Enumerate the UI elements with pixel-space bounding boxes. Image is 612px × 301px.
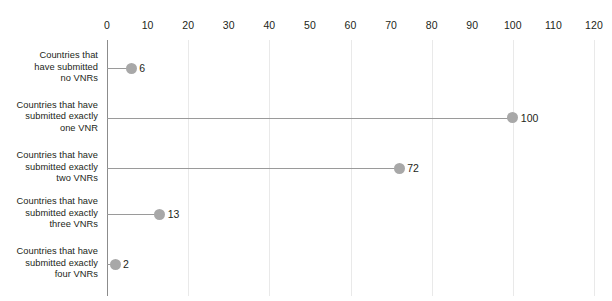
- category-label-line: submitted exactly: [0, 208, 98, 220]
- data-point-marker[interactable]: [394, 163, 405, 174]
- gridline-80: [432, 40, 433, 296]
- category-label-line: four VNRs: [0, 269, 98, 281]
- gridline-100: [513, 40, 514, 296]
- category-label: Countries thathave submittedno VNRs: [0, 50, 98, 85]
- x-tick-label-90: 90: [452, 19, 492, 32]
- x-tick-label-120: 120: [574, 19, 612, 32]
- x-tick-label-110: 110: [533, 19, 573, 32]
- x-tick-label-70: 70: [371, 19, 411, 32]
- x-tick-label-20: 20: [168, 19, 208, 32]
- x-tick-label-60: 60: [331, 19, 371, 32]
- stem-line: [107, 214, 160, 215]
- lollipop-chart: 0102030405060708090100110120 Countries t…: [0, 0, 612, 301]
- category-label-line: Countries that have: [0, 246, 98, 258]
- gridline-120: [594, 40, 595, 296]
- data-point-value-label: 72: [407, 162, 419, 174]
- category-label-line: one VNR: [0, 123, 98, 135]
- x-tick-label-80: 80: [412, 19, 452, 32]
- category-label-line: Countries that have: [0, 196, 98, 208]
- data-point-value-label: 6: [139, 62, 145, 74]
- x-tick-label-50: 50: [290, 19, 330, 32]
- data-point-value-label: 100: [521, 112, 539, 124]
- data-point-marker[interactable]: [507, 112, 518, 123]
- x-tick-label-10: 10: [128, 19, 168, 32]
- category-label-line: submitted exactly: [0, 111, 98, 123]
- data-point-marker[interactable]: [126, 63, 137, 74]
- x-tick-label-30: 30: [209, 19, 249, 32]
- category-label-line: no VNRs: [0, 73, 98, 85]
- category-label-line: submitted exactly: [0, 162, 98, 174]
- x-tick-label-0: 0: [87, 19, 127, 32]
- data-point-value-label: 2: [123, 258, 129, 270]
- data-point-marker[interactable]: [154, 209, 165, 220]
- x-tick-label-40: 40: [249, 19, 289, 32]
- category-label: Countries that havesubmitted exactlythre…: [0, 196, 98, 231]
- stem-line: [107, 118, 513, 119]
- category-label-line: submitted exactly: [0, 258, 98, 270]
- x-tick-label-100: 100: [493, 19, 533, 32]
- category-label-line: two VNRs: [0, 173, 98, 185]
- stem-line: [107, 168, 399, 169]
- data-point-marker[interactable]: [110, 259, 121, 270]
- category-label: Countries that havesubmitted exactlytwo …: [0, 150, 98, 185]
- category-label-line: Countries that have: [0, 100, 98, 112]
- data-point-value-label: 13: [168, 208, 180, 220]
- plot-area: 0102030405060708090100110120 Countries t…: [0, 0, 612, 301]
- category-label-line: Countries that have: [0, 150, 98, 162]
- category-label: Countries that havesubmitted exactlyone …: [0, 100, 98, 135]
- category-label-line: Countries that: [0, 50, 98, 62]
- category-label-line: have submitted: [0, 62, 98, 74]
- category-label-line: three VNRs: [0, 219, 98, 231]
- category-label: Countries that havesubmitted exactlyfour…: [0, 246, 98, 281]
